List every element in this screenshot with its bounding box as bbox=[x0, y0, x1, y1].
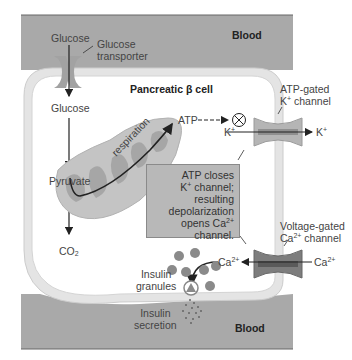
insulin-secretion-label: Insulin secretion bbox=[134, 307, 177, 331]
k-inside-text: K bbox=[224, 126, 231, 138]
atp-gated-k: K bbox=[280, 95, 287, 107]
blood-label-bottom: Blood bbox=[235, 322, 265, 334]
callout-line2: K+ channel; bbox=[152, 181, 234, 193]
callout-line3: resulting bbox=[152, 193, 234, 205]
atp-gated-channel-word: channel bbox=[291, 95, 331, 107]
glucose-transporter-line2: transporter bbox=[97, 50, 148, 62]
atp-gated-channel-line2: K+ channel bbox=[280, 95, 331, 107]
callout-line6: channel. bbox=[152, 229, 234, 241]
explanation-callout: ATP closes K+ channel; resulting depolar… bbox=[146, 164, 240, 238]
cell-label: Pancreatic β cell bbox=[130, 83, 213, 95]
blood-label-top: Blood bbox=[232, 29, 262, 41]
insulin-secretion-line2: secretion bbox=[134, 319, 177, 331]
voltage-gated-line2: Ca2+ channel bbox=[280, 232, 345, 244]
insulin-granules-label: Insulin granules bbox=[136, 268, 176, 292]
glucose-inside-label: Glucose bbox=[51, 102, 90, 114]
ca-inside-text: Ca bbox=[218, 256, 231, 268]
pyruvate-label: Pyruvate bbox=[49, 175, 90, 187]
atp-label: ATP bbox=[178, 114, 198, 126]
glucose-transporter-line1: Glucose bbox=[97, 38, 148, 50]
callout-line4: depolarization bbox=[152, 205, 234, 217]
atp-gated-channel-label: ATP-gated K+ channel bbox=[280, 83, 331, 107]
ca-outside-sup: 2+ bbox=[327, 256, 335, 263]
co2-label: CO2 bbox=[59, 245, 79, 257]
k-inside-label: K+ bbox=[224, 126, 235, 138]
ca-inside-label: Ca2+ bbox=[218, 256, 239, 268]
voltage-gated-channel-word: channel bbox=[301, 232, 341, 244]
callout-line1: ATP closes bbox=[152, 169, 234, 181]
co2-subscript: 2 bbox=[75, 250, 79, 257]
atp-gated-channel-line1: ATP-gated bbox=[280, 83, 331, 95]
insulin-secretion-diagram: Blood Blood Pancreatic β cell Glucose Gl… bbox=[0, 0, 352, 360]
insulin-secretion-line1: Insulin bbox=[134, 307, 177, 319]
k-outside-label: K+ bbox=[316, 126, 327, 138]
voltage-gated-channel-label: Voltage-gated Ca2+ channel bbox=[280, 220, 345, 244]
glucose-outside-label: Glucose bbox=[51, 32, 90, 44]
insulin-granules-line1: Insulin bbox=[136, 268, 176, 280]
callout-channel: channel; bbox=[191, 181, 234, 193]
ca-inside-sup: 2+ bbox=[231, 256, 239, 263]
glucose-transporter-label: Glucose transporter bbox=[97, 38, 148, 62]
k-outside-sup: + bbox=[323, 126, 327, 133]
k-outside-text: K bbox=[316, 126, 323, 138]
callout-opens-ca: opens Ca bbox=[181, 217, 226, 229]
ca-outside-label: Ca2+ bbox=[314, 256, 335, 268]
insulin-granules-line2: granules bbox=[136, 280, 176, 292]
voltage-gated-line1: Voltage-gated bbox=[280, 220, 345, 232]
ca-outside-text: Ca bbox=[314, 256, 327, 268]
callout-line5: opens Ca2+ bbox=[152, 217, 234, 229]
co2-text: CO bbox=[59, 245, 75, 257]
k-inside-sup: + bbox=[231, 126, 235, 133]
voltage-gated-ca: Ca bbox=[280, 232, 293, 244]
callout-ca-sup: 2+ bbox=[226, 217, 234, 224]
